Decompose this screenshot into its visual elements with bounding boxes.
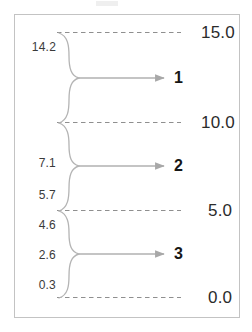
value-label-7-1: 7.1 <box>26 156 56 170</box>
value-label-2-6: 2.6 <box>26 248 56 262</box>
value-label-0-3: 0.3 <box>26 278 56 292</box>
brace-group-1 <box>59 33 79 123</box>
brace-diagram-figure: 15.0 10.0 5.0 0.0 14.2 7.1 5.7 4.6 2.6 0… <box>0 0 252 332</box>
arrow-group <box>79 78 164 254</box>
group-label-1: 1 <box>174 69 183 87</box>
value-label-4-6: 4.6 <box>26 218 56 232</box>
group-label-3: 3 <box>174 245 183 263</box>
value-label-5-7: 5.7 <box>26 188 56 202</box>
group-label-2: 2 <box>174 157 183 175</box>
brace-group-2 <box>59 123 79 211</box>
brace-group <box>59 33 79 298</box>
axis-tick-label-15: 15.0 <box>201 23 235 43</box>
axis-tick-label-10: 10.0 <box>201 113 235 133</box>
axis-tick-label-5: 5.0 <box>208 201 232 221</box>
brace-group-3 <box>59 211 79 298</box>
value-label-14-2: 14.2 <box>26 40 56 54</box>
axis-tick-label-0: 0.0 <box>208 288 232 308</box>
